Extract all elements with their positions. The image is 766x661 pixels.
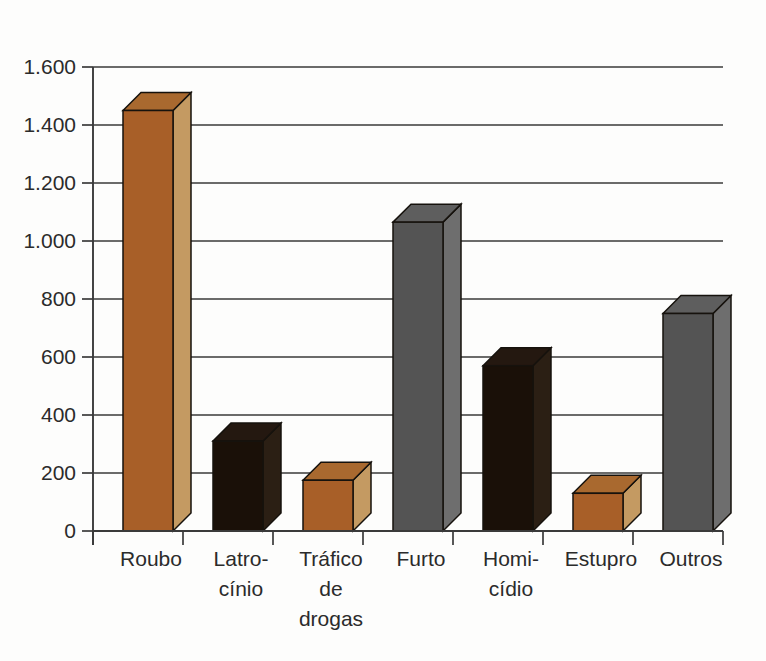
y-tick-label: 400 — [41, 403, 76, 426]
y-axis-ticks — [82, 67, 93, 531]
y-tick-label: 1.600 — [23, 55, 76, 78]
bar-orange — [123, 93, 191, 532]
x-tick-label: drogas — [299, 607, 363, 630]
x-tick-label: Outros — [659, 547, 722, 570]
x-tick-label: Furto — [396, 547, 445, 570]
x-tick-label: Tráfico — [299, 547, 362, 570]
bar-gray — [393, 204, 461, 531]
x-tick-label: de — [319, 577, 342, 600]
y-tick-label: 1.000 — [23, 229, 76, 252]
chart-canvas: 02004006008001.0001.2001.4001.600 RouboL… — [0, 0, 766, 661]
x-tick-label: Roubo — [120, 547, 182, 570]
bar-black — [483, 348, 551, 531]
bars — [123, 93, 731, 532]
bar-orange — [303, 462, 371, 531]
x-tick-label: Homi- — [483, 547, 539, 570]
x-axis-ticks — [93, 531, 723, 545]
bar-gray — [663, 296, 731, 532]
x-tick-label: cídio — [489, 577, 533, 600]
bar-orange — [573, 475, 641, 531]
y-tick-label: 800 — [41, 287, 76, 310]
x-axis-labels: RouboLatro-cínioTráficodedrogasFurtoHomi… — [120, 547, 722, 630]
x-tick-label: Latro- — [214, 547, 269, 570]
y-axis-labels: 02004006008001.0001.2001.4001.600 — [23, 55, 76, 542]
y-tick-label: 600 — [41, 345, 76, 368]
y-tick-label: 1.400 — [23, 113, 76, 136]
y-tick-label: 200 — [41, 461, 76, 484]
y-tick-label: 1.200 — [23, 171, 76, 194]
bar-black — [213, 423, 281, 531]
x-tick-label: cínio — [219, 577, 263, 600]
y-tick-label: 0 — [64, 519, 76, 542]
x-tick-label: Estupro — [565, 547, 637, 570]
bar-chart: 02004006008001.0001.2001.4001.600 RouboL… — [0, 0, 766, 661]
